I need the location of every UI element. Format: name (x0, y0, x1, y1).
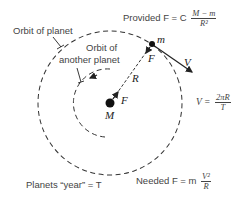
symbol-radius: R (132, 73, 139, 84)
velocity-eq-denominator: T (221, 103, 226, 112)
velocity-eq-prefix: V = (196, 97, 210, 107)
velocity-equation: V = 2πR T (196, 93, 231, 112)
velocity-eq-fraction: 2πR T (215, 93, 231, 112)
provided-force-equation: Provided F = C M − m R² (123, 9, 216, 28)
inner-orbit-direction-arrow (90, 75, 97, 78)
needed-force-equation: Needed F = m V² R (136, 172, 211, 191)
symbol-force-on-sun: F (121, 95, 128, 106)
planet-dot (149, 41, 155, 47)
symbol-planet-mass: m (157, 34, 165, 45)
orbit-of-planet-leader (53, 37, 61, 47)
symbol-central-mass: M (105, 110, 114, 121)
needed-force-prefix: Needed F = m (136, 175, 196, 186)
force-arrow-on-sun (113, 92, 118, 99)
central-mass-dot (106, 99, 115, 108)
label-orbit-of-planet: Orbit of planet (13, 26, 73, 36)
provided-force-prefix: Provided F = C (123, 12, 187, 23)
label-orbit-of-another-planet-2: another planet (59, 55, 120, 65)
label-orbit-of-another-planet-1: Orbit of (86, 43, 117, 53)
provided-force-fraction: M − m R² (191, 9, 216, 28)
inner-orbit (73, 69, 110, 137)
needed-force-denominator: R (203, 182, 208, 191)
needed-force-fraction: V² R (201, 172, 211, 191)
symbol-force-on-planet: F (148, 53, 155, 64)
symbol-velocity: V (184, 57, 191, 68)
provided-force-denominator: R² (200, 19, 208, 28)
orbit-of-another-planet-leader (77, 68, 81, 82)
label-planets-year: Planets “year” = T (26, 180, 102, 190)
